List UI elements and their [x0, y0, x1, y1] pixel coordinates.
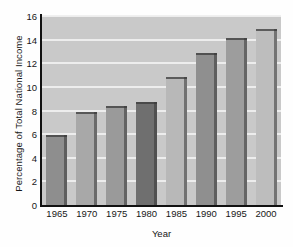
- y-tick-label: 10: [3, 81, 37, 92]
- y-tick-label: 2: [3, 176, 37, 187]
- x-tick-label: 1980: [136, 208, 157, 219]
- x-axis-line: [40, 205, 283, 207]
- x-tick-label: 1990: [196, 208, 217, 219]
- bar-side-edge: [214, 53, 217, 205]
- bar: [256, 29, 277, 205]
- bar: [166, 77, 187, 205]
- bar: [226, 38, 247, 205]
- y-tick-label: 6: [3, 129, 37, 140]
- y-tick-label: 8: [3, 105, 37, 116]
- y-tick-label: 4: [3, 152, 37, 163]
- y-tick-label: 14: [3, 34, 37, 45]
- bar-side-edge: [274, 29, 277, 205]
- x-tick-label: 2000: [255, 208, 276, 219]
- bar-side-edge: [154, 102, 157, 205]
- y-axis-line: [40, 14, 42, 207]
- x-tick-label: 1965: [46, 208, 67, 219]
- x-axis-title: Year: [42, 228, 281, 239]
- bar-side-edge: [94, 112, 97, 205]
- bar-chart-figure: Percentage of Total National Income 0246…: [0, 0, 293, 247]
- bar: [46, 135, 67, 205]
- bar: [196, 53, 217, 205]
- bar-side-edge: [244, 38, 247, 205]
- y-tick-label: 16: [3, 11, 37, 22]
- y-tick-label: 12: [3, 58, 37, 69]
- y-tick-label: 0: [3, 200, 37, 211]
- x-tick-label: 1970: [76, 208, 97, 219]
- bar-side-edge: [124, 106, 127, 205]
- x-tick-label: 1995: [226, 208, 247, 219]
- bar: [136, 102, 157, 205]
- x-tick-label: 1975: [106, 208, 127, 219]
- bar: [76, 112, 97, 205]
- bar-side-edge: [184, 77, 187, 205]
- plot-area: [42, 16, 281, 205]
- gridline: [42, 15, 281, 17]
- y-axis-tick-labels: 0246810121416: [0, 0, 37, 247]
- x-tick-label: 1985: [166, 208, 187, 219]
- bar-side-edge: [64, 135, 67, 205]
- bar: [106, 106, 127, 205]
